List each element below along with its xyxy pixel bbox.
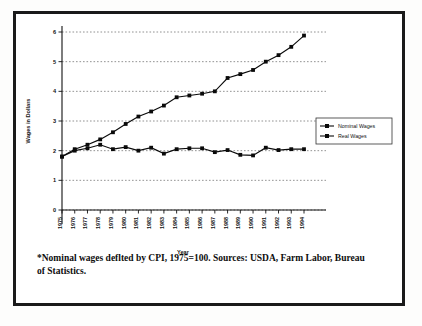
svg-text:1: 1 bbox=[53, 177, 56, 183]
svg-text:0: 0 bbox=[53, 207, 56, 213]
svg-text:Real Wages: Real Wages bbox=[338, 133, 367, 139]
y-axis-title: Wages in Dollars bbox=[25, 99, 31, 144]
svg-text:1994: 1994 bbox=[299, 217, 305, 229]
chart-series-layer bbox=[60, 34, 306, 159]
chart-gridlines bbox=[62, 32, 326, 210]
svg-text:5: 5 bbox=[53, 59, 56, 65]
svg-text:1983: 1983 bbox=[159, 217, 165, 229]
svg-text:Nominal Wages: Nominal Wages bbox=[338, 123, 376, 129]
wages-line-chart: 0123456 19751976197719781979198019811982… bbox=[16, 14, 408, 254]
svg-text:1992: 1992 bbox=[274, 217, 280, 229]
svg-text:1990: 1990 bbox=[248, 217, 254, 229]
svg-text:1986: 1986 bbox=[197, 217, 203, 229]
x-axis-tick-labels: 1975197619771978197919801981198219831984… bbox=[57, 217, 305, 229]
svg-text:1977: 1977 bbox=[82, 217, 88, 229]
svg-text:1987: 1987 bbox=[210, 217, 216, 229]
svg-text:1985: 1985 bbox=[184, 217, 190, 229]
svg-text:2: 2 bbox=[53, 148, 56, 154]
svg-text:1982: 1982 bbox=[146, 217, 152, 229]
svg-text:1991: 1991 bbox=[261, 217, 267, 229]
svg-text:1988: 1988 bbox=[223, 217, 229, 229]
svg-text:1981: 1981 bbox=[133, 217, 139, 229]
svg-text:1989: 1989 bbox=[235, 217, 241, 229]
svg-text:1979: 1979 bbox=[108, 217, 114, 229]
y-axis-tick-labels: 0123456 bbox=[53, 29, 57, 213]
svg-text:1984: 1984 bbox=[172, 217, 178, 229]
svg-text:1978: 1978 bbox=[95, 217, 101, 229]
svg-text:1975: 1975 bbox=[57, 217, 63, 229]
svg-text:4: 4 bbox=[53, 88, 57, 94]
svg-text:6: 6 bbox=[53, 29, 56, 35]
svg-text:1993: 1993 bbox=[286, 217, 292, 229]
chart-plot-area: 0123456 19751976197719781979198019811982… bbox=[16, 14, 408, 254]
figure-caption: *Nominal wages deflted by CPI, 1975=100.… bbox=[37, 252, 367, 278]
figure-frame: 0123456 19751976197719781979198019811982… bbox=[13, 11, 405, 306]
svg-text:3: 3 bbox=[53, 118, 56, 124]
svg-text:1980: 1980 bbox=[121, 217, 127, 229]
chart-legend[interactable]: Nominal WagesReal Wages bbox=[316, 118, 392, 144]
svg-text:1976: 1976 bbox=[70, 217, 76, 229]
